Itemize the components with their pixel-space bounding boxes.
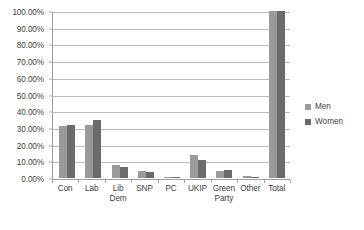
bar [198, 160, 206, 178]
y-tick-label: 70.00% [17, 58, 44, 67]
bar [164, 177, 172, 178]
bar [138, 171, 146, 178]
x-axis-label: Lab [78, 184, 104, 204]
bar-group [238, 12, 264, 178]
bar-group [211, 12, 237, 178]
x-tick-mark [211, 180, 212, 183]
x-tick-mark [264, 180, 265, 183]
y-tick-label: 10.00% [17, 158, 44, 167]
bar-group [133, 12, 159, 178]
bars-layer [54, 12, 290, 178]
bar-group [185, 12, 211, 178]
x-axis-label: Green Party [211, 184, 237, 204]
x-axis-label: PC [158, 184, 184, 204]
legend: MenWomen [305, 99, 363, 129]
bar [146, 172, 154, 178]
x-tick-mark [290, 180, 291, 183]
x-axis-label: Total [264, 184, 290, 204]
bar [251, 177, 259, 178]
x-axis-label: SNP [131, 184, 157, 204]
y-tick-label: 40.00% [17, 108, 44, 117]
x-axis-label: Con [52, 184, 78, 204]
y-tick-label: 0.00% [21, 175, 44, 184]
x-tick-mark [105, 180, 106, 183]
bar [120, 167, 128, 178]
y-tick-label: 80.00% [17, 41, 44, 50]
legend-label: Men [315, 102, 331, 111]
y-tick-label: 30.00% [17, 124, 44, 133]
bar [67, 125, 75, 178]
x-axis-label: Other [237, 184, 263, 204]
x-tick-mark [131, 180, 132, 183]
y-tick-label: 90.00% [17, 24, 44, 33]
bar [190, 155, 198, 178]
bar [216, 171, 224, 179]
legend-label: Women [315, 117, 343, 126]
bar-group [264, 12, 290, 178]
bar [269, 11, 277, 178]
bar [59, 126, 67, 178]
y-tick-label: 100.00% [12, 8, 44, 17]
x-tick-mark [158, 180, 159, 183]
y-tick-label: 20.00% [17, 141, 44, 150]
bar-group [106, 12, 132, 178]
legend-item[interactable]: Women [305, 114, 363, 129]
bar [112, 165, 120, 178]
x-tick-mark [237, 180, 238, 183]
x-axis-label: Lib Dem [105, 184, 131, 204]
y-tick-label: 50.00% [17, 91, 44, 100]
bar-chart: 0.00%10.00%20.00%30.00%40.00%50.00%60.00… [0, 0, 364, 230]
legend-swatch-icon [305, 104, 311, 110]
bar [85, 125, 93, 178]
x-axis-labels: ConLabLib DemSNPPCUKIPGreen PartyOtherTo… [52, 184, 290, 204]
x-tick-mark [78, 180, 79, 183]
legend-item[interactable]: Men [305, 99, 363, 114]
x-tick-mark [184, 180, 185, 183]
bar [93, 120, 101, 178]
y-axis: 0.00%10.00%20.00%30.00%40.00%50.00%60.00… [0, 12, 48, 180]
bar [172, 177, 180, 178]
bar-group [159, 12, 185, 178]
bar [277, 11, 285, 178]
bar [224, 170, 232, 178]
x-axis-label: UKIP [184, 184, 210, 204]
x-tick-mark [52, 180, 53, 183]
bar-group [80, 12, 106, 178]
legend-swatch-icon [305, 119, 311, 125]
y-tick-label: 60.00% [17, 74, 44, 83]
plot-area [52, 12, 290, 180]
bar [243, 176, 251, 178]
bar-group [54, 12, 80, 178]
plot-wrapper: 0.00%10.00%20.00%30.00%40.00%50.00%60.00… [0, 0, 300, 230]
